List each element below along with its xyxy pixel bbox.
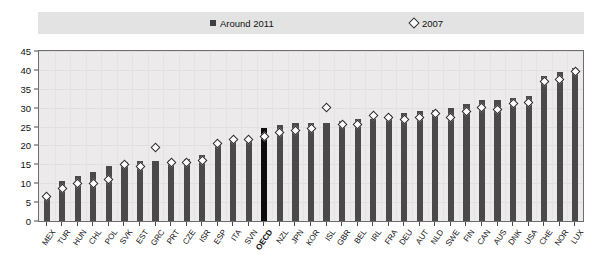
bar-group-mex [44,51,50,221]
bar-group-tur [59,51,65,221]
y-tick-label: 10 [20,178,31,189]
bars-layer [39,51,583,221]
bar-group-can [479,51,485,221]
x-tick-mark [61,222,62,226]
x-tick-label-chl: CHL [87,228,103,246]
bar-group-swe [448,51,454,221]
x-tick-label-swe: SWE [444,228,462,248]
x-tick-mark [310,222,311,226]
x-tick-mark [170,222,171,226]
x-tick-label-nld: NLD [429,228,445,246]
x-tick-mark [512,222,513,226]
x-tick-mark [559,222,560,226]
x-tick-mark [341,222,342,226]
x-tick-mark [155,222,156,226]
bar-group-irl [370,51,376,221]
bar-group-cze [184,51,190,221]
x-tick-label-tur: TUR [56,228,73,246]
bar-group-kor [308,51,314,221]
bar [230,140,236,221]
bar-group-fra [386,51,392,221]
x-tick-mark [419,222,420,226]
x-tick-label-aus: AUS [491,228,508,246]
x-tick-label-lux: LUX [569,228,585,246]
x-tick-label-jpn: JPN [290,228,306,245]
x-tick-mark [201,222,202,226]
x-tick-label-irl: IRL [369,228,383,243]
bar [417,111,423,221]
bar [152,161,158,221]
x-tick-label-grc: GRC [149,228,166,247]
bar [215,145,221,221]
bar-group-ita [230,51,236,221]
bar-group-prt [168,51,174,221]
bar [168,160,174,221]
bar-group-nzl [277,51,283,221]
x-tick-mark [217,222,218,226]
x-axis-labels: MEXTURHUNCHLPOLSVKESTGRCPRTCZEISRESPITAS… [38,222,584,273]
x-tick-label-kor: KOR [304,228,321,247]
x-tick-mark [46,222,47,226]
bar-group-usa [526,51,532,221]
x-tick-label-svk: SVK [118,228,134,246]
legend-item-around-2011: Around 2011 [210,12,274,34]
bar [448,108,454,221]
bar-group-nor [557,51,563,221]
bar [308,123,314,221]
x-tick-label-prt: PRT [165,228,181,246]
x-tick-label-che: CHE [538,228,555,247]
x-tick-label-cze: CZE [181,228,197,246]
plot-area [38,50,584,222]
x-tick-label-usa: USA [522,228,539,246]
x-tick-mark [139,222,140,226]
x-tick-mark [388,222,389,226]
y-tick-label: 40 [20,64,31,75]
x-tick-label-hun: HUN [71,228,88,247]
x-tick-label-ita: ITA [230,228,244,243]
bar-group-svk [121,51,127,221]
x-tick-mark [186,222,187,226]
y-tick-label: 15 [20,159,31,170]
bar [292,123,298,221]
chart-container: Around 2011 2007 051015202530354045 MEXT… [0,0,611,273]
x-tick-mark [450,222,451,226]
bar-group-jpn [292,51,298,221]
bar [510,98,516,221]
x-tick-mark [497,222,498,226]
y-tick-label: 5 [26,197,31,208]
bar-group-hun [75,51,81,221]
bar-group-lux [572,51,578,221]
x-tick-mark [434,222,435,226]
x-tick-label-can: CAN [475,228,492,247]
bar [121,162,127,221]
bar-group-dnk [510,51,516,221]
x-tick-mark [465,222,466,226]
legend-label-2007: 2007 [422,18,443,29]
data-point-marker [322,103,332,113]
bar [277,125,283,221]
bar-group-svn [246,51,252,221]
x-tick-mark [403,222,404,226]
x-tick-mark [108,222,109,226]
data-point-marker [151,142,161,152]
x-tick-mark [294,222,295,226]
x-tick-label-fra: FRA [383,228,399,246]
bar [323,123,329,221]
bar [355,119,361,221]
y-tick-label: 20 [20,140,31,151]
x-tick-label-mex: MEX [40,228,57,247]
y-tick-label: 30 [20,102,31,113]
chart-legend: Around 2011 2007 [38,12,584,34]
x-tick-label-deu: DEU [398,228,415,247]
bar [401,113,407,221]
x-tick-mark [263,222,264,226]
x-tick-label-est: EST [134,228,150,246]
bar-group-isl [323,51,329,221]
x-tick-mark [326,222,327,226]
x-tick-label-aut: AUT [414,228,430,246]
bar [494,100,500,221]
bar [184,159,190,221]
bar-group-aut [417,51,423,221]
bar [246,138,252,221]
x-tick-label-dnk: DNK [507,228,524,247]
